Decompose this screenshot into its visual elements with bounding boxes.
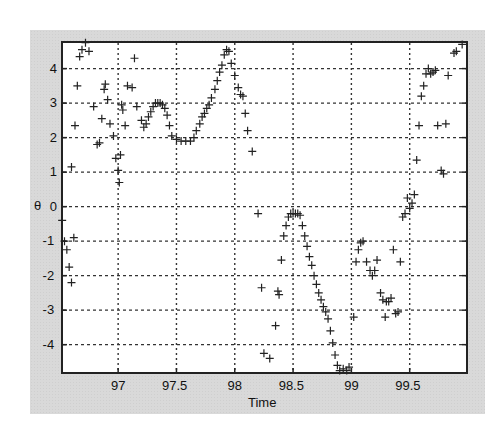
data-point-marker [227, 59, 235, 67]
data-point-marker [442, 120, 450, 128]
data-point-marker [403, 194, 411, 202]
data-point-marker [413, 156, 421, 164]
data-point-marker [298, 222, 306, 230]
data-point-marker [98, 115, 106, 123]
data-point-marker [71, 122, 79, 130]
data-point-marker [213, 77, 221, 85]
y-tick-label: -1 [43, 233, 55, 248]
data-point-marker [67, 279, 75, 287]
data-point-marker [434, 122, 442, 130]
data-point-marker [282, 222, 290, 230]
data-point-marker [303, 242, 311, 250]
y-tick-label: 3 [50, 95, 57, 110]
x-tick-label: 98.5 [279, 378, 304, 393]
data-point-marker [381, 313, 389, 321]
data-point-marker [133, 103, 141, 111]
data-point-marker [317, 296, 325, 304]
scatter-plot [0, 0, 503, 439]
x-tick-label: 99.5 [395, 378, 420, 393]
data-point-marker [260, 349, 268, 357]
data-point-marker [115, 178, 123, 186]
y-tick-label: 1 [50, 164, 57, 179]
x-tick-label: 99 [344, 378, 358, 393]
y-tick-label: 2 [50, 130, 57, 145]
data-point-marker [81, 39, 89, 47]
data-point-marker [379, 296, 387, 304]
data-point-marker [458, 40, 466, 48]
data-point-marker [241, 109, 249, 117]
y-tick-label: -4 [43, 337, 55, 352]
data-point-marker [67, 163, 75, 171]
data-point-marker [118, 101, 126, 109]
data-point-marker [339, 365, 347, 373]
data-point-marker [373, 256, 381, 264]
data-point-marker [211, 85, 219, 93]
data-point-marker [363, 258, 371, 266]
data-point-marker [244, 127, 252, 135]
data-point-marker [280, 232, 288, 240]
x-axis-label: Time [248, 395, 276, 410]
data-point-marker [308, 261, 316, 269]
data-point-marker [396, 258, 404, 266]
data-point-marker [137, 116, 145, 124]
data-point-marker [352, 258, 360, 266]
data-point-marker [324, 315, 332, 323]
y-tick-label: 4 [50, 61, 57, 76]
data-point-marker [326, 327, 334, 335]
data-point-marker [101, 80, 109, 88]
data-point-marker [109, 132, 117, 140]
data-point-marker [130, 54, 138, 62]
data-point-marker [123, 82, 131, 90]
data-point-marker [354, 246, 362, 254]
data-point-marker [331, 351, 339, 359]
y-tick-label: -2 [43, 268, 55, 283]
data-point-marker [119, 106, 127, 114]
data-point-marker [104, 96, 112, 104]
x-tick-label: 98 [228, 378, 242, 393]
data-point-marker [168, 132, 176, 140]
data-point-marker [163, 111, 171, 119]
data-point-marker [128, 84, 136, 92]
data-point-marker [444, 72, 452, 80]
data-point-marker [114, 166, 122, 174]
data-point-marker [186, 137, 194, 145]
y-tick-label: 0 [50, 199, 57, 214]
data-point-marker [90, 103, 98, 111]
data-point-marker [258, 284, 266, 292]
data-point-marker [389, 246, 397, 254]
data-point-marker [231, 72, 239, 80]
data-point-marker [190, 134, 198, 142]
data-point-marker [196, 120, 204, 128]
data-point-marker [410, 191, 418, 199]
data-point-marker [310, 272, 318, 280]
data-point-marker [417, 92, 425, 100]
x-tick-label: 97 [111, 378, 125, 393]
data-point-marker [63, 246, 71, 254]
data-point-marker [100, 85, 108, 93]
data-point-marker [312, 280, 320, 288]
data-point-marker [420, 82, 428, 90]
data-point-marker [216, 68, 224, 76]
data-point-marker [248, 147, 256, 155]
data-point-marker [192, 127, 200, 135]
x-tick-label: 97.5 [162, 378, 187, 393]
data-point-marker [112, 154, 120, 162]
data-point-marker [60, 237, 68, 245]
data-point-marker [266, 354, 274, 362]
data-point-marker [305, 253, 313, 261]
data-point-marker [165, 122, 173, 130]
data-point-marker [272, 322, 280, 330]
data-point-marker [274, 287, 282, 295]
data-point-marker [106, 120, 114, 128]
data-point-marker [76, 53, 84, 61]
data-point-marker [315, 289, 323, 297]
data-point-marker [85, 47, 93, 55]
data-point-marker [78, 46, 86, 54]
data-point-marker [377, 289, 385, 297]
data-point-marker [58, 216, 66, 224]
data-point-marker [172, 135, 180, 143]
data-point-marker [415, 122, 423, 130]
data-point-marker [121, 122, 129, 130]
data-point-marker [73, 82, 81, 90]
y-tick-label: -3 [43, 302, 55, 317]
